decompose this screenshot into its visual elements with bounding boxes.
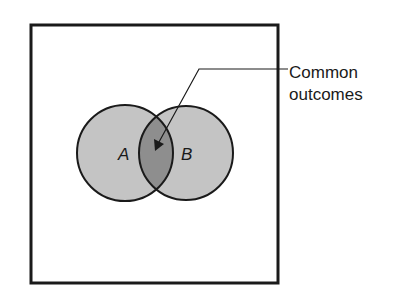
set-b-label: B	[181, 145, 192, 164]
common-outcomes-annotation: Common outcomes	[289, 62, 363, 106]
venn-diagram-canvas: A B	[0, 0, 394, 294]
annotation-line-2: outcomes	[289, 84, 363, 106]
annotation-line-1: Common	[289, 62, 363, 84]
set-a-label: A	[117, 145, 129, 164]
